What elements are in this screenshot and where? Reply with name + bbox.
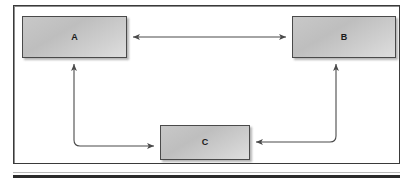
node-a-label: A <box>71 33 78 42</box>
diagram-canvas: A B C <box>0 0 415 185</box>
node-a[interactable]: A <box>22 16 127 58</box>
node-b-label: B <box>341 33 348 42</box>
footer-rule-hairline <box>13 172 400 173</box>
node-c-label: C <box>202 138 209 147</box>
node-b[interactable]: B <box>292 16 396 58</box>
footer-rule <box>13 175 400 178</box>
node-c[interactable]: C <box>160 125 250 160</box>
